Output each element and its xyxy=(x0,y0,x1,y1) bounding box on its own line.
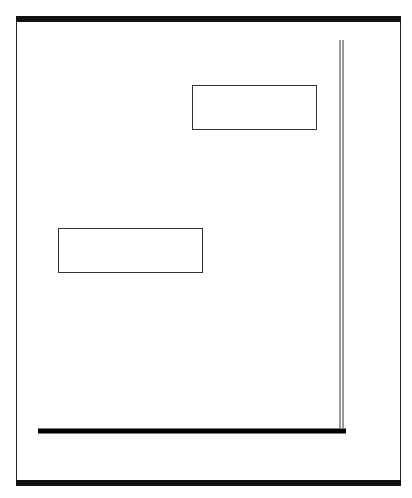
callout-compounded xyxy=(192,85,317,130)
callout-simple xyxy=(58,228,203,273)
